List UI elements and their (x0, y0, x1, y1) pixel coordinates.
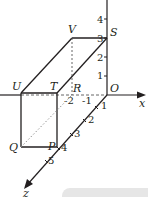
z-tick-1: 1 (101, 100, 107, 111)
diagram-canvas: 1 2 3 4 x -2 -1 z 1 2 3 4 5 (0, 0, 148, 197)
corner-panel (62, 188, 148, 197)
cuboid-3d-diagram: 1 2 3 4 x -2 -1 z 1 2 3 4 5 (0, 0, 148, 197)
y-tick-1: 1 (97, 70, 103, 81)
cuboid-edges (21, 38, 107, 147)
z-axis-label: z (22, 187, 29, 197)
x-tick-neg2: -2 (64, 95, 74, 106)
z-tick-5: 5 (48, 155, 54, 166)
y-tick-2: 2 (97, 52, 103, 63)
vertex-label-U: U (12, 80, 22, 93)
vertex-label-P: P (47, 140, 56, 153)
vertex-label-Q: Q (9, 141, 18, 154)
x-tick-neg1: -1 (82, 95, 92, 106)
z-tick-3: 3 (74, 128, 80, 139)
vertex-label-R: R (72, 82, 81, 95)
vertex-label-T: T (50, 80, 59, 93)
vertex-label-V: V (68, 23, 77, 36)
origin-label-O: O (110, 82, 119, 95)
y-tick-4: 4 (97, 14, 103, 25)
z-axis (27, 95, 107, 185)
z-tick-4: 4 (61, 142, 67, 153)
x-axis-label: x (139, 97, 146, 110)
vertex-label-S: S (110, 26, 118, 39)
hidden-edge-QR (21, 95, 72, 147)
z-tick-2: 2 (88, 114, 94, 125)
